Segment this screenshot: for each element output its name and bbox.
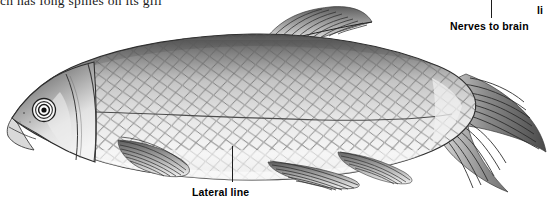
eye xyxy=(33,99,56,122)
fish-head xyxy=(7,62,96,162)
leader-line-nerves-to-brain xyxy=(491,0,492,18)
callout-label-clipped-right: li xyxy=(537,4,551,16)
leader-line-lateral-line xyxy=(232,146,233,182)
callout-label-lateral-line: Lateral line xyxy=(192,186,249,198)
figure-page: ch has long spines on its gill xyxy=(0,0,551,201)
callout-label-nerves-to-brain: Nerves to brain xyxy=(450,20,529,32)
